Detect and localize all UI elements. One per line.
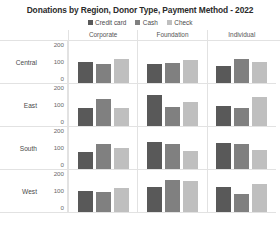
y-tick-0: 0 [61, 205, 64, 211]
cell-west-foundation [137, 170, 206, 212]
chart-title: Donations by Region, Donor Type, Payment… [0, 0, 280, 15]
bar-check[interactable] [114, 108, 129, 127]
bar-cash[interactable] [234, 59, 249, 83]
y-tick-0: 0 [61, 76, 64, 82]
legend-label-cash: Cash [143, 19, 158, 26]
bar-check[interactable] [252, 62, 267, 83]
y-tick-200: 200 [54, 171, 64, 177]
y-axis-south: 2001000 [40, 127, 68, 169]
column-header-row: Corporate Foundation Individual [0, 30, 280, 40]
legend-swatch-check [167, 20, 172, 25]
y-tick-100: 100 [54, 188, 64, 194]
bar-credit-card[interactable] [147, 187, 162, 212]
y-axis-east: 2001000 [40, 84, 68, 126]
legend-label-check: Check [174, 19, 192, 26]
bar-check[interactable] [183, 60, 198, 83]
column-header-corporate: Corporate [68, 30, 137, 40]
bar-cash[interactable] [234, 194, 249, 212]
facet-cells [68, 84, 276, 126]
facet-row-central: Central2001000 [0, 41, 276, 84]
facet-row-east: East2001000 [0, 84, 276, 127]
row-label-central: Central [0, 41, 40, 83]
legend-item-credit-card[interactable]: Credit card [88, 19, 127, 26]
bar-credit-card[interactable] [78, 152, 93, 169]
cell-east-individual [207, 84, 276, 126]
row-label-south: South [0, 127, 40, 169]
legend-swatch-credit-card [88, 20, 93, 25]
bar-cash[interactable] [165, 107, 180, 126]
facet-grid: Central2001000East2001000South2001000Wes… [0, 40, 280, 213]
facet-cells [68, 41, 276, 83]
bar-cash[interactable] [96, 192, 111, 212]
bar-check[interactable] [183, 151, 198, 169]
bar-credit-card[interactable] [147, 95, 162, 126]
bar-check[interactable] [252, 150, 267, 169]
legend-item-cash[interactable]: Cash [135, 19, 157, 26]
y-tick-0: 0 [61, 162, 64, 168]
cell-west-individual [207, 170, 276, 212]
bar-cash[interactable] [96, 144, 111, 169]
y-tick-0: 0 [61, 119, 64, 125]
bar-cash[interactable] [96, 99, 111, 126]
bar-cash[interactable] [165, 144, 180, 169]
column-header-foundation: Foundation [137, 30, 206, 40]
cell-south-individual [207, 127, 276, 169]
row-label-east: East [0, 84, 40, 126]
legend-swatch-cash [135, 20, 140, 25]
bar-credit-card[interactable] [216, 106, 231, 126]
chart-container: Donations by Region, Donor Type, Payment… [0, 0, 280, 247]
bar-credit-card[interactable] [147, 142, 162, 169]
y-axis-west: 2001000 [40, 170, 68, 212]
y-axis-central: 2001000 [40, 41, 68, 83]
y-tick-100: 100 [54, 102, 64, 108]
bar-cash[interactable] [96, 64, 111, 83]
cell-south-corporate [68, 127, 137, 169]
row-label-west: West [0, 170, 40, 212]
facet-row-south: South2001000 [0, 127, 276, 170]
bar-check[interactable] [114, 188, 129, 212]
cell-east-corporate [68, 84, 137, 126]
bar-check[interactable] [114, 148, 129, 169]
legend-item-check[interactable]: Check [167, 19, 193, 26]
bar-cash[interactable] [165, 63, 180, 83]
column-header-individual: Individual [207, 30, 276, 40]
cell-central-foundation [137, 41, 206, 83]
legend-label-credit-card: Credit card [95, 19, 126, 26]
cell-south-foundation [137, 127, 206, 169]
bar-check[interactable] [252, 184, 267, 212]
facet-cells [68, 127, 276, 169]
y-tick-100: 100 [54, 145, 64, 151]
chart-legend: Credit card Cash Check [0, 18, 280, 27]
bar-check[interactable] [183, 102, 198, 126]
footer-spacer [0, 213, 280, 219]
bar-cash[interactable] [165, 180, 180, 212]
facet-row-west: West2001000 [0, 170, 276, 213]
facet-cells [68, 170, 276, 212]
y-tick-200: 200 [54, 128, 64, 134]
bar-check[interactable] [183, 181, 198, 212]
y-tick-200: 200 [54, 85, 64, 91]
bar-credit-card[interactable] [216, 143, 231, 169]
bar-credit-card[interactable] [216, 187, 231, 212]
bar-credit-card[interactable] [78, 62, 93, 83]
cell-east-foundation [137, 84, 206, 126]
bar-credit-card[interactable] [78, 191, 93, 212]
bar-credit-card[interactable] [216, 66, 231, 83]
cell-central-corporate [68, 41, 137, 83]
bar-cash[interactable] [234, 108, 249, 126]
cell-west-corporate [68, 170, 137, 212]
y-tick-200: 200 [54, 42, 64, 48]
bar-check[interactable] [252, 97, 267, 126]
bar-credit-card[interactable] [147, 64, 162, 83]
bar-credit-card[interactable] [78, 108, 93, 126]
bar-cash[interactable] [234, 144, 249, 169]
bar-check[interactable] [114, 59, 129, 83]
cell-central-individual [207, 41, 276, 83]
y-tick-100: 100 [54, 59, 64, 65]
